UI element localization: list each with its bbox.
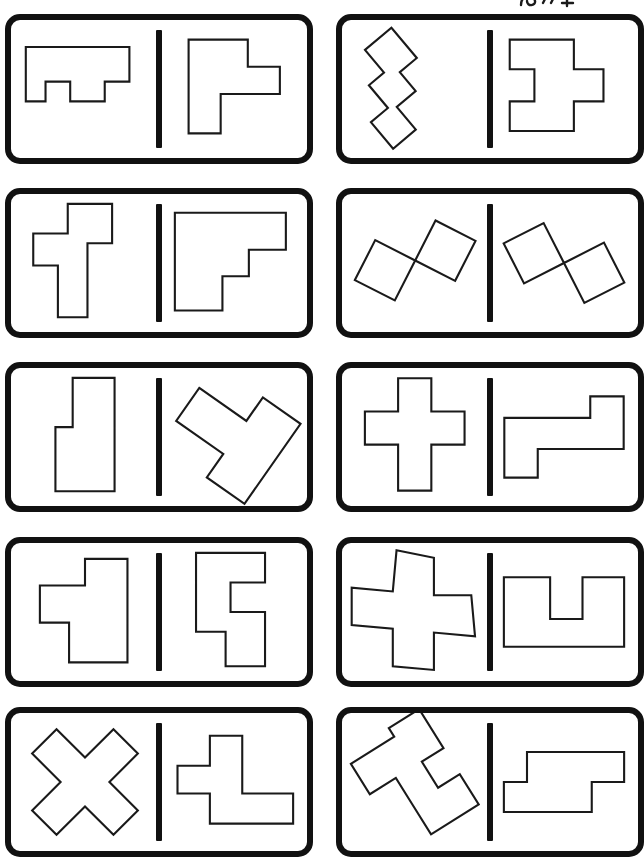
card-8-right-half[interactable] bbox=[490, 543, 638, 681]
card-9-right-shape bbox=[178, 736, 294, 824]
card-4-left-half[interactable] bbox=[342, 194, 490, 332]
card-4[interactable] bbox=[336, 188, 644, 338]
card-2-left-shape bbox=[342, 28, 452, 149]
card-4-right-half[interactable] bbox=[490, 194, 638, 332]
card-8-left-shape bbox=[342, 543, 490, 681]
card-7[interactable] bbox=[5, 537, 313, 687]
card-7-right-shape bbox=[196, 553, 265, 666]
card-9-right-half[interactable] bbox=[159, 713, 307, 851]
card-8-right-shape bbox=[504, 577, 624, 646]
card-9-left-shape bbox=[11, 713, 159, 851]
card-1-left-half[interactable] bbox=[11, 20, 159, 158]
card-9-left-half[interactable] bbox=[11, 713, 159, 851]
card-2-right-half[interactable] bbox=[490, 20, 638, 158]
card-3[interactable] bbox=[5, 188, 313, 338]
card-5-left-shape bbox=[55, 378, 114, 491]
card-5-right-half[interactable] bbox=[159, 368, 307, 506]
card-8[interactable] bbox=[336, 537, 644, 687]
card-6-left-shape bbox=[365, 378, 465, 490]
card-1-right-shape bbox=[189, 40, 280, 134]
card-5[interactable] bbox=[5, 362, 313, 512]
card-10[interactable] bbox=[336, 707, 644, 857]
card-4-left-shape bbox=[345, 211, 485, 311]
card-6[interactable] bbox=[336, 362, 644, 512]
card-3-right-shape bbox=[175, 213, 286, 311]
card-3-right-half[interactable] bbox=[159, 194, 307, 332]
card-1[interactable] bbox=[5, 14, 313, 164]
card-5-right-shape bbox=[160, 368, 301, 504]
card-1-right-half[interactable] bbox=[159, 20, 307, 158]
card-10-left-half[interactable] bbox=[342, 713, 490, 851]
card-2-right-shape bbox=[510, 40, 604, 131]
card-1-left-shape bbox=[26, 47, 130, 101]
card-3-left-half[interactable] bbox=[11, 194, 159, 332]
card-10-left-shape bbox=[345, 713, 478, 851]
card-6-right-shape bbox=[504, 396, 623, 477]
card-2[interactable] bbox=[336, 14, 644, 164]
card-7-left-half[interactable] bbox=[11, 543, 159, 681]
card-5-left-half[interactable] bbox=[11, 368, 159, 506]
card-7-right-half[interactable] bbox=[159, 543, 307, 681]
card-9[interactable] bbox=[5, 707, 313, 857]
card-4-right-shape bbox=[494, 213, 634, 313]
card-2-left-half[interactable] bbox=[342, 20, 490, 158]
card-6-right-half[interactable] bbox=[490, 368, 638, 506]
card-3-left-shape bbox=[33, 204, 112, 317]
card-6-left-half[interactable] bbox=[342, 368, 490, 506]
card-7-left-shape bbox=[40, 559, 128, 663]
card-10-right-half[interactable] bbox=[490, 713, 638, 851]
card-8-left-half[interactable] bbox=[342, 543, 490, 681]
card-10-right-shape bbox=[504, 752, 624, 812]
